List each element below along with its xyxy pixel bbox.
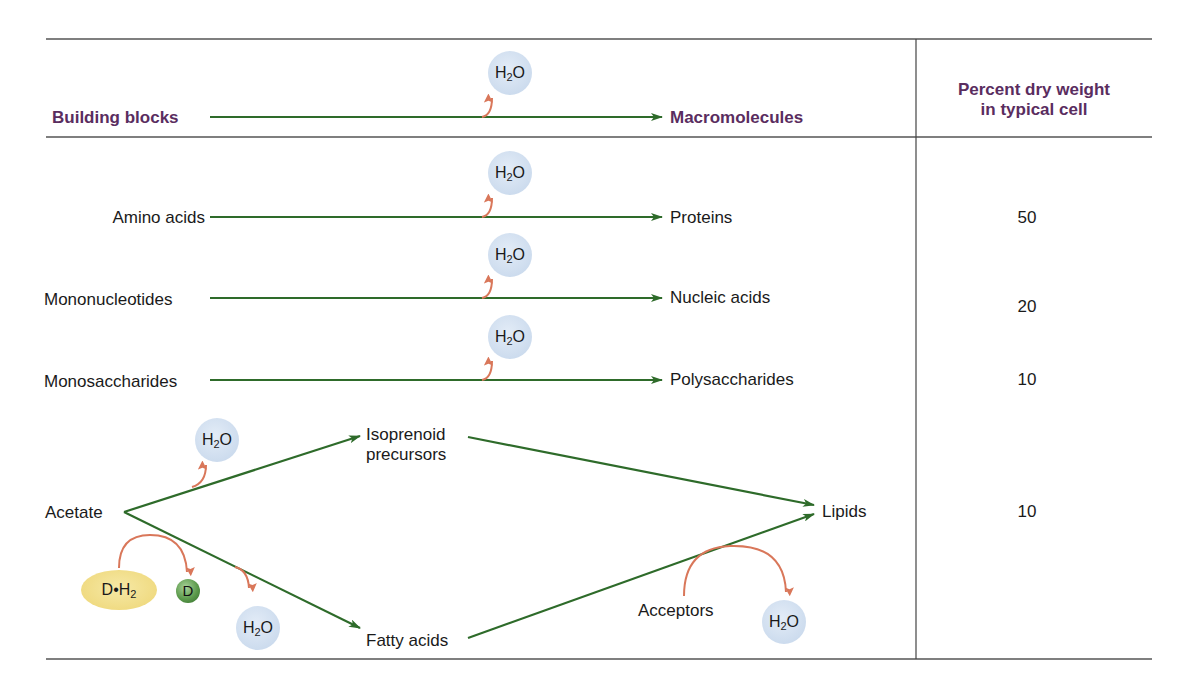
percent-value: 20	[997, 297, 1057, 317]
water-bubble: H2O	[488, 315, 532, 359]
isoprenoid-label-line1: Isoprenoid	[366, 425, 445, 445]
water-bubble: H2O	[195, 418, 239, 462]
oxidized-donor-bubble: D	[176, 579, 200, 603]
macromolecule-label: Nucleic acids	[670, 288, 770, 308]
percent-header-line2: in typical cell	[916, 100, 1152, 120]
lipids-label: Lipids	[822, 502, 866, 522]
building-blocks-header: Building blocks	[52, 108, 179, 128]
reduced-donor-bubble: D•H2	[81, 570, 157, 610]
percent-dry-weight-header: Percent dry weight in typical cell	[916, 80, 1152, 120]
percent-value: 10	[997, 502, 1057, 522]
macromolecules-header: Macromolecules	[670, 108, 803, 128]
percent-header-line1: Percent dry weight	[916, 80, 1152, 100]
macromolecule-label: Polysaccharides	[670, 370, 794, 390]
fatty-acids-label: Fatty acids	[366, 631, 448, 651]
building-block-label: Mononucleotides	[44, 290, 173, 310]
macromolecule-synthesis-diagram: Building blocks Macromolecules Percent d…	[0, 0, 1185, 690]
acceptors-label: Acceptors	[638, 601, 714, 621]
water-bubble: H2O	[488, 151, 532, 195]
percent-value: 50	[997, 208, 1057, 228]
percent-value: 10	[997, 370, 1057, 390]
acetate-label: Acetate	[45, 503, 103, 523]
building-block-label: Amino acids	[112, 208, 205, 228]
building-block-label: Monosaccharides	[44, 372, 177, 392]
water-bubble: H2O	[762, 600, 806, 644]
water-bubble: H2O	[488, 233, 532, 277]
macromolecule-label: Proteins	[670, 208, 732, 228]
isoprenoid-label-line2: precursors	[366, 445, 446, 465]
water-bubble: H2O	[236, 606, 280, 650]
water-bubble: H2O	[488, 51, 532, 95]
